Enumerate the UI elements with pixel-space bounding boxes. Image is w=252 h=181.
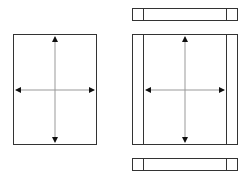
- single-page-panel: [14, 35, 97, 145]
- bottom-bar: [133, 159, 238, 171]
- layout-diagram: [0, 0, 252, 181]
- main-page: [133, 35, 238, 145]
- framed-page-panel: [133, 9, 238, 171]
- top-bar: [133, 9, 238, 21]
